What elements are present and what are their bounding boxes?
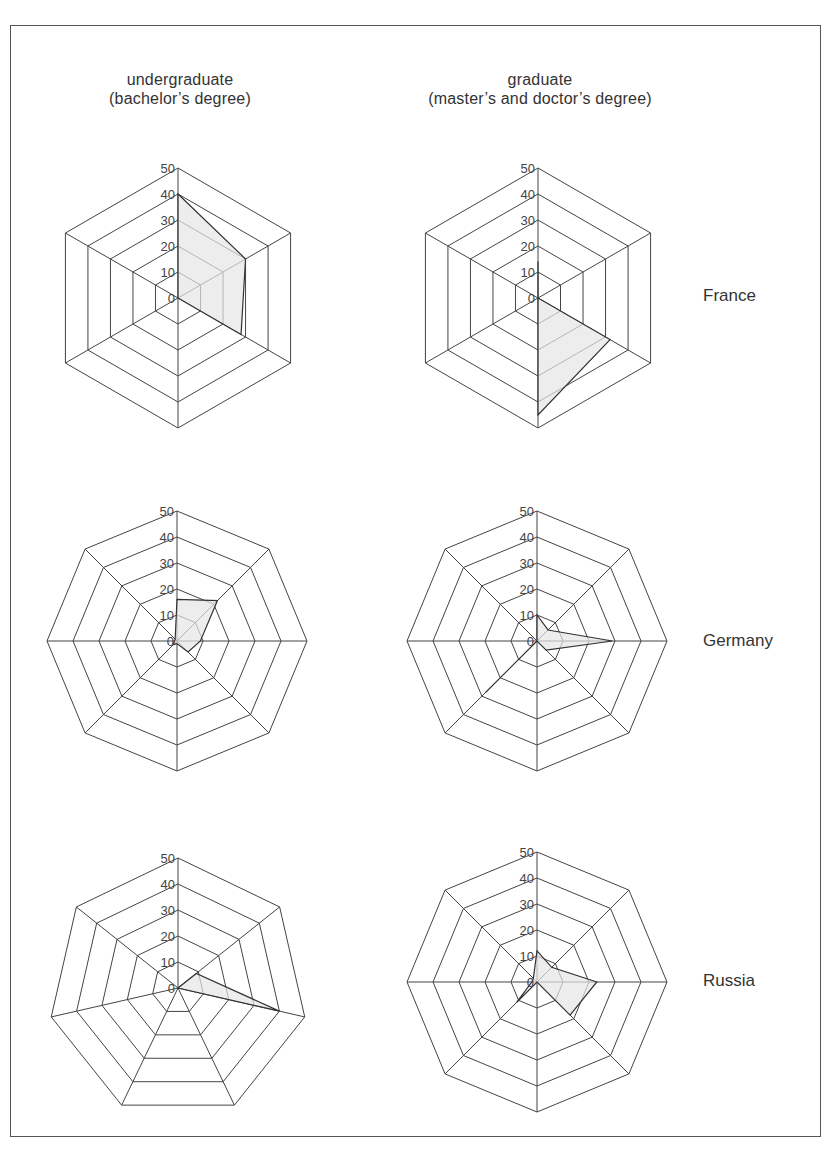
axis-spoke [425,298,538,363]
data-polygon [173,599,217,652]
axis-tick-label: 40 [160,530,174,545]
axis-tick-label: 50 [161,161,175,176]
axis-spoke [538,233,651,298]
radar-chart-1: 01020304050 [425,161,650,428]
radar-chart-3: 01020304050 [407,504,667,771]
axis-tick-label: 30 [520,897,534,912]
axis-tick-label: 0 [527,634,534,649]
axis-tick-label: 20 [160,582,174,597]
axis-tick-label: 20 [520,582,534,597]
axis-tick-label: 20 [521,239,535,254]
radar-charts: 0102030405001020304050010203040500102030… [0,0,830,1150]
radar-chart-2: 01020304050 [47,504,307,771]
radar-chart-5: 01020304050 [407,845,667,1112]
axis-tick-label: 10 [161,955,175,970]
axis-tick-label: 10 [520,949,534,964]
axis-spoke [65,298,178,363]
axis-tick-label: 20 [520,923,534,938]
axis-tick-label: 40 [520,871,534,886]
axis-tick-label: 30 [520,556,534,571]
axis-tick-label: 40 [521,187,535,202]
axis-tick-label: 30 [521,213,535,228]
radar-chart-4: 01020304050 [51,851,304,1105]
axis-tick-label: 0 [527,975,534,990]
axis-tick-label: 0 [168,291,175,306]
axis-tick-label: 20 [161,239,175,254]
axis-tick-label: 0 [167,634,174,649]
data-polygon [178,194,246,334]
axis-tick-label: 40 [520,530,534,545]
radar-chart-0: 01020304050 [65,161,290,428]
axis-tick-label: 0 [528,291,535,306]
data-polygon [178,973,279,1011]
axis-tick-label: 10 [160,608,174,623]
axis-tick-label: 50 [160,504,174,519]
axis-tick-label: 30 [160,556,174,571]
axis-spoke [178,988,234,1105]
axis-tick-label: 30 [161,213,175,228]
axis-tick-label: 0 [168,981,175,996]
axis-spoke [122,988,178,1105]
axis-tick-label: 10 [161,265,175,280]
axis-tick-label: 10 [521,265,535,280]
axis-tick-label: 40 [161,187,175,202]
axis-tick-label: 40 [161,877,175,892]
axis-tick-label: 30 [161,903,175,918]
axis-tick-label: 10 [520,608,534,623]
axis-tick-label: 20 [161,929,175,944]
axis-tick-label: 50 [520,845,534,860]
axis-tick-label: 50 [520,504,534,519]
data-polygon [538,262,610,415]
axis-tick-label: 50 [161,851,175,866]
axis-tick-label: 50 [521,161,535,176]
data-polygon [486,615,613,692]
